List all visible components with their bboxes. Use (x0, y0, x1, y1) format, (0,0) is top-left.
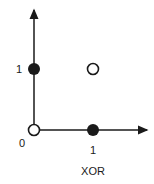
origin-label-0: 0 (19, 137, 25, 149)
xor-diagram (0, 0, 154, 184)
point-0-1-filled (28, 63, 40, 75)
y-tick-label-1: 1 (16, 63, 22, 75)
point-1-0-filled (87, 124, 99, 136)
x-tick-label-1: 1 (90, 144, 96, 156)
diagram-title: XOR (81, 165, 105, 177)
point-1-1-open (88, 64, 99, 75)
point-0-0-open (29, 125, 40, 136)
